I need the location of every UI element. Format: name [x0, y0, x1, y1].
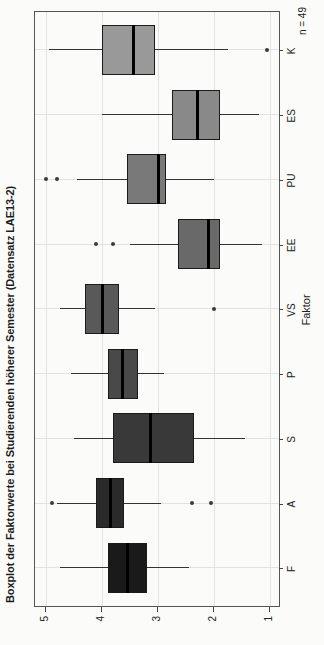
outlier-A-1 [190, 501, 194, 505]
value-tick-1 [269, 607, 270, 612]
value-tick-label-2: 2 [207, 616, 218, 636]
category-label-K: K [286, 31, 297, 71]
outlier-K-0 [265, 48, 269, 52]
box-S [113, 414, 194, 464]
whisker-upper-F [60, 568, 108, 569]
median-VS [101, 284, 104, 334]
category-label-P: P [286, 355, 297, 395]
category-tick-VS [279, 310, 283, 311]
outlier-VS-0 [212, 307, 216, 311]
whisker-lower-VS [119, 309, 155, 310]
median-F [126, 543, 129, 593]
category-label-EE: EE [286, 225, 297, 265]
outlier-PU-1 [44, 178, 48, 182]
box-EE [178, 219, 220, 269]
outlier-A-2 [209, 501, 213, 505]
x-axis-label: Faktor [300, 13, 312, 607]
whisker-upper-VS [60, 309, 85, 310]
median-P [121, 349, 124, 399]
median-S [149, 414, 152, 464]
whisker-lower-A [124, 503, 160, 504]
median-PU [157, 155, 160, 205]
grid-line-value-5 [46, 12, 47, 606]
value-tick-2 [213, 607, 214, 612]
category-label-F: F [286, 549, 297, 589]
box-PU [127, 155, 166, 205]
outlier-PU-0 [55, 178, 59, 182]
category-label-ES: ES [286, 96, 297, 136]
value-tick-label-3: 3 [151, 616, 162, 636]
box-K [102, 25, 155, 75]
chart-canvas-landscape: Boxplot der Faktorwerte bei Studierenden… [0, 0, 324, 645]
whisker-lower-P [138, 373, 163, 374]
whisker-upper-ES [102, 114, 172, 115]
rotated-boxplot-figure: Boxplot der Faktorwerte bei Studierenden… [0, 0, 324, 645]
whisker-lower-ES [220, 114, 259, 115]
category-label-VS: VS [286, 290, 297, 330]
category-tick-A [279, 504, 283, 505]
category-label-A: A [286, 484, 297, 524]
value-axis: 12345 [34, 607, 280, 645]
outlier-EE-1 [94, 242, 98, 246]
grid-line-value-1 [270, 12, 271, 606]
median-A [109, 478, 112, 528]
median-K [132, 25, 135, 75]
category-tick-EE [279, 245, 283, 246]
median-ES [196, 90, 199, 140]
chart-title: Boxplot der Faktorwerte bei Studierenden… [4, 186, 16, 603]
whisker-lower-EE [220, 244, 262, 245]
category-tick-K [279, 51, 283, 52]
category-tick-ES [279, 115, 283, 116]
value-tick-label-4: 4 [95, 616, 106, 636]
category-tick-PU [279, 180, 283, 181]
whisker-upper-P [71, 373, 107, 374]
outlier-EE-0 [111, 242, 115, 246]
category-label-S: S [286, 420, 297, 460]
whisker-lower-S [194, 438, 244, 439]
outlier-A-0 [50, 501, 54, 505]
sample-size-annotation: n = 49 [297, 7, 308, 35]
whisker-lower-PU [166, 179, 214, 180]
plot-frame [34, 11, 280, 607]
value-tick-3 [157, 607, 158, 612]
median-EE [207, 219, 210, 269]
category-tick-P [279, 374, 283, 375]
grid-line-value-3 [158, 12, 159, 606]
category-tick-S [279, 439, 283, 440]
category-label-PU: PU [286, 161, 297, 201]
whisker-upper-K [49, 50, 102, 51]
value-tick-label-5: 5 [39, 616, 50, 636]
whisker-upper-EE [130, 244, 178, 245]
whisker-lower-K [155, 50, 228, 51]
value-tick-label-1: 1 [263, 616, 274, 636]
value-tick-4 [101, 607, 102, 612]
category-tick-F [279, 569, 283, 570]
whisker-lower-F [147, 568, 189, 569]
whisker-upper-A [57, 503, 96, 504]
value-tick-5 [45, 607, 46, 612]
category-axis: FASPVSEEPUESK [279, 11, 319, 607]
whisker-upper-PU [77, 179, 127, 180]
whisker-upper-S [74, 438, 113, 439]
